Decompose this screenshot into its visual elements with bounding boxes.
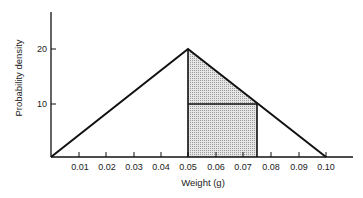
x-axis-label: Weight (g) bbox=[181, 177, 225, 188]
y-axis-label: Probability density bbox=[13, 39, 24, 116]
chart: 20 10 0.01 0.02 0.03 0.04 0.05 0.06 0.07… bbox=[0, 0, 363, 198]
x-tick-label: 0.08 bbox=[262, 162, 280, 172]
x-tick-label: 0.05 bbox=[179, 162, 197, 172]
x-tick-label: 0.04 bbox=[152, 162, 170, 172]
shaded-region bbox=[188, 49, 257, 157]
x-tick-label: 0.07 bbox=[234, 162, 252, 172]
x-tick-label: 0.01 bbox=[71, 162, 89, 172]
x-tick-label: 0.10 bbox=[317, 162, 335, 172]
x-tick-label: 0.06 bbox=[207, 162, 225, 172]
y-tick-label-10: 10 bbox=[37, 99, 47, 109]
x-tick-label: 0.02 bbox=[98, 162, 116, 172]
y-tick-label-20: 20 bbox=[37, 44, 47, 54]
x-tick-label: 0.09 bbox=[290, 162, 308, 172]
x-tick-label: 0.03 bbox=[125, 162, 143, 172]
x-tick-labels: 0.01 0.02 0.03 0.04 0.05 0.06 0.07 0.08 … bbox=[71, 162, 335, 172]
